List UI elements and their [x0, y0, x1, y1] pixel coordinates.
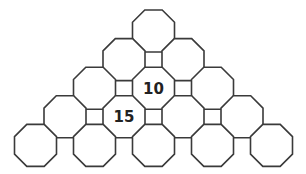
connector-square	[203, 107, 222, 126]
connector-square	[144, 107, 163, 126]
octagon-shape	[15, 124, 57, 166]
connector-square	[144, 50, 163, 69]
octagon-shape	[251, 124, 293, 166]
connector-square	[115, 79, 134, 98]
connector-square	[174, 79, 193, 98]
octagon-cell[interactable]	[133, 124, 175, 166]
octagon-cell[interactable]	[15, 124, 57, 166]
octagon-shape	[192, 124, 234, 166]
octagon-cell[interactable]	[192, 124, 234, 166]
connector-square	[85, 107, 104, 126]
octagon-shape	[74, 124, 116, 166]
octagon-pyramid: 1015	[0, 0, 306, 174]
octagon-cell[interactable]	[74, 124, 116, 166]
cell-value: 10	[143, 80, 164, 98]
octagon-cell[interactable]	[251, 124, 293, 166]
octagon-cells: 1015	[15, 10, 293, 166]
octagon-shape	[133, 124, 175, 166]
cell-value: 15	[114, 108, 135, 126]
